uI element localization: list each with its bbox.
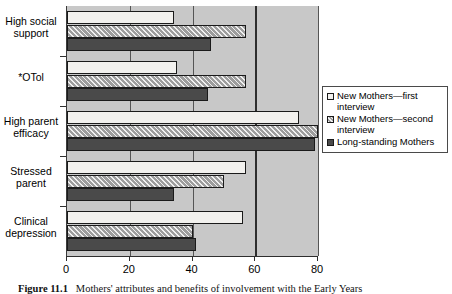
gridline-80 <box>318 6 319 256</box>
figure-number: Figure 11.1 <box>18 283 68 294</box>
category-label-line1: High social <box>0 16 62 28</box>
bar-long-standing-mothers-2 <box>67 138 315 151</box>
legend-label: New Mothers—second interview <box>337 114 433 135</box>
x-tick-60 <box>254 256 255 261</box>
legend-swatch-icon <box>327 93 334 100</box>
x-tick-20 <box>129 256 130 261</box>
plot-area <box>66 6 318 256</box>
category-label-line2: efficacy <box>0 128 62 140</box>
legend-label: New Mothers—first interview <box>337 91 418 112</box>
bar-new-mothers-first-4 <box>67 211 243 224</box>
bar-long-standing-mothers-3 <box>67 188 174 201</box>
category-label-otol: *OTol <box>0 72 62 84</box>
x-tick-label-80: 80 <box>311 263 323 275</box>
x-tick-label-40: 40 <box>185 263 197 275</box>
category-label-line1: *OTol <box>0 72 62 84</box>
legend-label-line2: interview <box>337 101 375 112</box>
category-label-high-parent-efficacy: High parent efficacy <box>0 116 62 139</box>
bar-new-mothers-second-3 <box>67 175 224 188</box>
bar-new-mothers-first-3 <box>67 161 246 174</box>
category-label-line1: Stressed <box>0 166 62 178</box>
category-label-line1: Clinical <box>0 216 62 228</box>
caption-text: Mothers' attributes and benefits of invo… <box>76 283 363 294</box>
figure-caption: Figure 11.1 Mothers' attributes and bene… <box>18 283 438 294</box>
category-label-stressed-parent: Stressed parent <box>0 166 62 189</box>
chart-legend: New Mothers—first interview New Mothers—… <box>322 86 448 153</box>
legend-item-long-standing-mothers: Long-standing Mothers <box>327 137 444 148</box>
legend-label-line1: New Mothers—second <box>337 113 433 124</box>
legend-label: Long-standing Mothers <box>337 137 434 148</box>
x-tick-label-20: 20 <box>123 263 135 275</box>
bar-new-mothers-first-1 <box>67 61 177 74</box>
category-label-clinical-depression: Clinical depression <box>0 216 62 239</box>
legend-item-new-mothers-first: New Mothers—first interview <box>327 91 444 112</box>
bar-new-mothers-second-2 <box>67 125 318 138</box>
legend-item-new-mothers-second: New Mothers—second interview <box>327 114 444 135</box>
category-label-line2: depression <box>0 228 62 240</box>
category-label-line2: parent <box>0 178 62 190</box>
category-label-line2: support <box>0 28 62 40</box>
bar-new-mothers-second-1 <box>67 75 246 88</box>
y-tick-4 <box>60 206 66 207</box>
legend-swatch-icon <box>327 139 334 146</box>
figure-container: High social support *OTol High parent ef… <box>0 0 452 294</box>
bar-new-mothers-second-0 <box>67 25 246 38</box>
bar-new-mothers-second-4 <box>67 225 193 238</box>
legend-swatch-icon <box>327 116 334 123</box>
category-label-high-social-support: High social support <box>0 16 62 39</box>
x-tick-0 <box>66 256 67 261</box>
bar-long-standing-mothers-4 <box>67 238 196 251</box>
legend-label-line1: Long-standing Mothers <box>337 136 434 147</box>
bar-new-mothers-first-2 <box>67 111 299 124</box>
x-tick-label-60: 60 <box>248 263 260 275</box>
bar-long-standing-mothers-1 <box>67 88 208 101</box>
y-tick-2 <box>60 106 66 107</box>
legend-label-line1: New Mothers—first <box>337 90 418 101</box>
legend-label-line2: interview <box>337 124 375 135</box>
category-axis-labels: High social support *OTol High parent ef… <box>0 6 62 256</box>
bar-long-standing-mothers-0 <box>67 38 211 51</box>
bar-new-mothers-first-0 <box>67 11 174 24</box>
x-tick-40 <box>192 256 193 261</box>
y-tick-1 <box>60 56 66 57</box>
category-label-line1: High parent <box>0 116 62 128</box>
x-tick-label-0: 0 <box>63 263 69 275</box>
x-tick-80 <box>317 256 318 261</box>
y-tick-3 <box>60 156 66 157</box>
